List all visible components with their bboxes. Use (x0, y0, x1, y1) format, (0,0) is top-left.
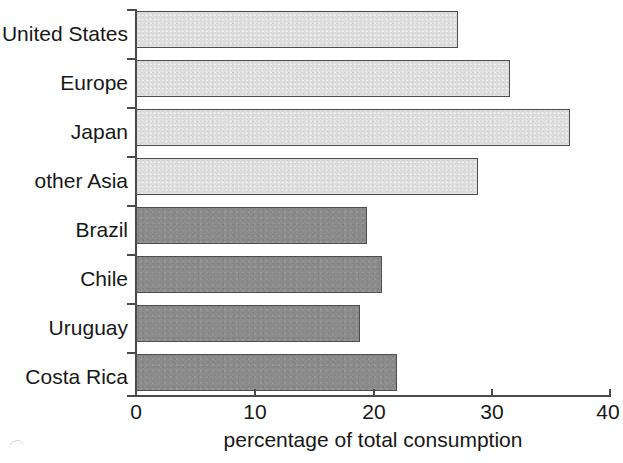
category-label-japan: Japan (71, 120, 128, 144)
y-axis-tick (127, 254, 136, 256)
x-axis-tick-label-0: 0 (130, 400, 142, 424)
bar-chile (136, 256, 382, 293)
bar-brazil (136, 207, 367, 244)
bar-japan (136, 109, 570, 146)
y-axis-tick (127, 205, 136, 207)
x-axis-tick-label-40: 40 (596, 400, 619, 424)
scan-artifact (7, 438, 25, 451)
x-axis-tick (373, 389, 375, 397)
x-axis-tick (609, 389, 611, 397)
bar-uruguay (136, 305, 360, 342)
x-axis-tick (254, 389, 256, 397)
category-label-costa-rica: Costa Rica (25, 365, 128, 389)
bar-europe (136, 60, 510, 97)
category-label-brazil: Brazil (75, 218, 128, 242)
bar-united-states (136, 11, 458, 48)
category-label-uruguay: Uruguay (49, 316, 128, 340)
x-axis-tick (135, 389, 137, 397)
category-label-europe: Europe (60, 71, 128, 95)
x-axis-title: percentage of total consumption (136, 428, 610, 452)
bar-other-asia (136, 158, 478, 195)
y-axis-tick (127, 303, 136, 305)
y-axis-tick (127, 156, 136, 158)
bar-costa-rica (136, 354, 397, 391)
y-axis-tick (127, 352, 136, 354)
category-label-united-states: United States (2, 22, 128, 46)
x-axis-tick-label-20: 20 (362, 400, 385, 424)
x-axis-tick-label-10: 10 (243, 400, 266, 424)
x-axis-tick-label-30: 30 (480, 400, 503, 424)
category-label-other-asia: other Asia (35, 169, 128, 193)
y-axis-tick (127, 9, 136, 11)
y-axis-tick (127, 107, 136, 109)
bar-chart: United States Europe Japan other Asia Br… (0, 0, 623, 463)
x-axis-tick (491, 389, 493, 397)
category-label-chile: Chile (80, 267, 128, 291)
y-axis-tick (127, 58, 136, 60)
